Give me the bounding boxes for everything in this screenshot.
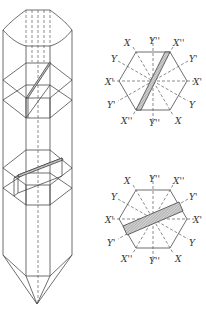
label-x: X bbox=[123, 38, 131, 48]
label-y: Y bbox=[111, 192, 118, 202]
label-x-bottom: X bbox=[174, 254, 182, 264]
label-x-double-prime: X'' bbox=[172, 176, 184, 186]
label-y-double-prime: Y'' bbox=[149, 174, 160, 184]
lower-crystal-slice bbox=[3, 150, 72, 205]
label-y-lower: Y bbox=[189, 238, 196, 248]
label-y-double-prime-bottom: Y'' bbox=[149, 118, 160, 128]
label-x-prime-left: X' bbox=[104, 77, 114, 87]
top-cross-section: X Y'' X'' Y Y' X' X' Y' Y X'' Y'' X bbox=[104, 36, 202, 128]
bottom-cross-section: X Y'' X'' Y Y' X' X' Y' Y X'' Y'' X bbox=[104, 174, 202, 266]
label-x: X bbox=[123, 176, 131, 186]
label-y-prime: Y' bbox=[189, 192, 197, 202]
label-y: Y bbox=[111, 54, 118, 64]
label-y-prime: Y' bbox=[189, 54, 197, 64]
label-y-lower: Y bbox=[189, 100, 196, 110]
label-x-prime-left: X' bbox=[104, 215, 114, 225]
label-x-prime-right: X' bbox=[192, 77, 202, 87]
label-x-bottom: X bbox=[174, 116, 182, 126]
label-x-double-prime-bottom: X'' bbox=[120, 254, 132, 264]
label-y-prime-lower: Y' bbox=[107, 238, 115, 248]
hexagonal-prism-crystal bbox=[3, 10, 72, 304]
label-y-prime-lower: Y' bbox=[107, 100, 115, 110]
label-x-double-prime: X'' bbox=[172, 38, 184, 48]
upper-crystal-slice bbox=[3, 63, 72, 118]
crystal-diagram: X Y'' X'' Y Y' X' X' Y' Y X'' Y'' X X Y'… bbox=[0, 0, 206, 310]
label-y-double-prime-bottom: Y'' bbox=[149, 256, 160, 266]
label-x-double-prime-bottom: X'' bbox=[120, 116, 132, 126]
label-y-double-prime: Y'' bbox=[149, 36, 160, 46]
label-x-prime-right: X' bbox=[192, 215, 202, 225]
